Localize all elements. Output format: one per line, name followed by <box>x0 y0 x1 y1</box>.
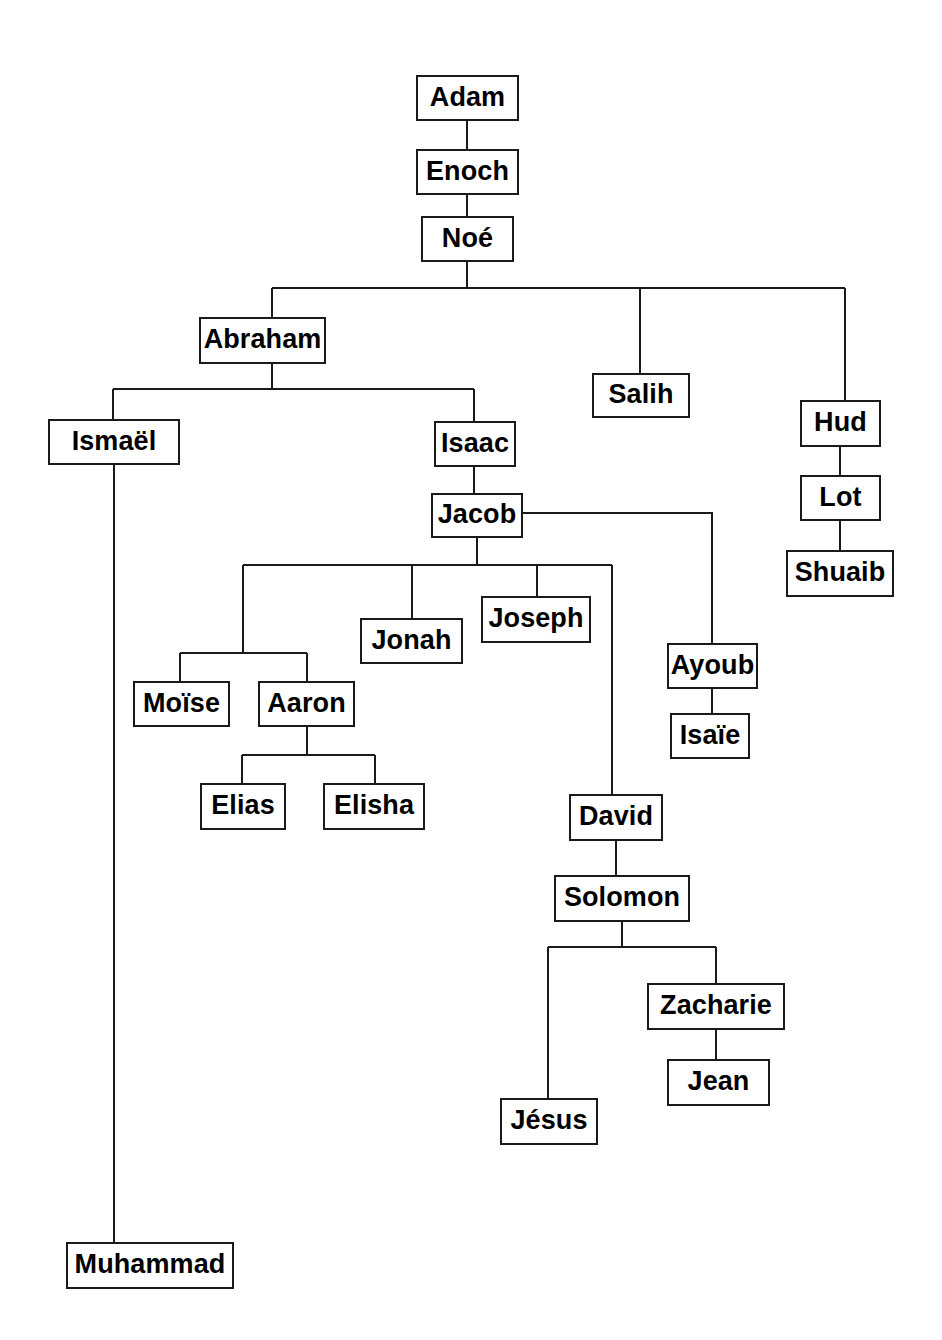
node-label-noe: Noé <box>442 225 493 252</box>
node-muhammad[interactable]: Muhammad <box>66 1242 234 1289</box>
node-label-abraham: Abraham <box>204 326 322 353</box>
node-enoch[interactable]: Enoch <box>416 149 519 195</box>
node-label-jacob: Jacob <box>438 501 517 528</box>
node-jean[interactable]: Jean <box>667 1059 770 1106</box>
node-lot[interactable]: Lot <box>800 475 881 521</box>
node-label-enoch: Enoch <box>426 158 509 185</box>
node-label-jesus: Jésus <box>510 1107 587 1134</box>
node-label-aaron: Aaron <box>267 690 346 717</box>
node-noe[interactable]: Noé <box>421 216 514 262</box>
node-label-solomon: Solomon <box>564 884 680 911</box>
genealogy-diagram: Adam Enoch Noé Abraham Salih Hud Ismaël … <box>0 0 942 1340</box>
node-label-salih: Salih <box>608 381 673 408</box>
node-label-jean: Jean <box>688 1068 750 1095</box>
node-label-ayoub: Ayoub <box>671 652 755 679</box>
node-shuaib[interactable]: Shuaib <box>786 550 894 597</box>
connector-lines-layer <box>0 0 942 1340</box>
node-joseph[interactable]: Joseph <box>481 596 591 643</box>
node-zacharie[interactable]: Zacharie <box>647 983 785 1030</box>
node-label-david: David <box>579 803 653 830</box>
node-ayoub[interactable]: Ayoub <box>667 643 758 689</box>
node-label-zacharie: Zacharie <box>660 992 772 1019</box>
node-label-shuaib: Shuaib <box>795 559 886 586</box>
node-elisha[interactable]: Elisha <box>323 783 425 830</box>
node-moise[interactable]: Moïse <box>133 681 230 727</box>
node-ismael[interactable]: Ismaël <box>48 419 180 465</box>
node-jonah[interactable]: Jonah <box>360 618 463 664</box>
node-label-adam: Adam <box>430 84 505 111</box>
node-abraham[interactable]: Abraham <box>199 317 326 364</box>
node-label-elisha: Elisha <box>334 792 414 819</box>
node-label-isaie: Isaïe <box>680 722 741 749</box>
node-label-moise: Moïse <box>143 690 220 717</box>
node-jesus[interactable]: Jésus <box>500 1098 598 1145</box>
node-hud[interactable]: Hud <box>800 400 881 447</box>
node-label-muhammad: Muhammad <box>75 1251 226 1278</box>
node-isaie[interactable]: Isaïe <box>670 713 750 759</box>
node-label-joseph: Joseph <box>488 605 583 632</box>
node-label-hud: Hud <box>814 409 867 436</box>
node-label-isaac: Isaac <box>441 430 509 457</box>
node-label-jonah: Jonah <box>371 627 451 654</box>
node-label-lot: Lot <box>819 484 861 511</box>
node-elias[interactable]: Elias <box>200 783 286 830</box>
node-salih[interactable]: Salih <box>592 373 690 418</box>
node-label-elias: Elias <box>211 792 275 819</box>
node-label-ismael: Ismaël <box>72 428 157 455</box>
node-jacob[interactable]: Jacob <box>431 493 523 538</box>
node-aaron[interactable]: Aaron <box>258 681 355 727</box>
node-solomon[interactable]: Solomon <box>554 875 690 922</box>
node-david[interactable]: David <box>569 794 663 841</box>
node-adam[interactable]: Adam <box>416 75 519 121</box>
node-isaac[interactable]: Isaac <box>434 421 516 467</box>
